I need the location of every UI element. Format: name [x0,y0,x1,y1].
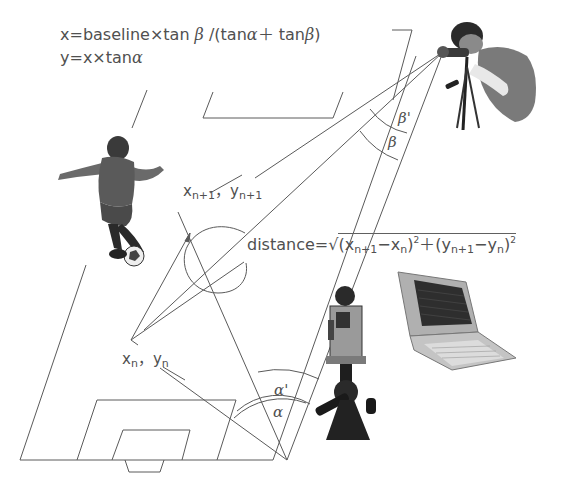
beta-symbol: β [305,25,314,44]
x-var: x [183,182,192,200]
current-marker [131,340,138,345]
point-current-label: xn，yn [122,352,169,369]
term: −y [474,235,497,254]
x-formula: x=baseline×tan β /(tanα＋ tanβ) [60,27,320,43]
y-formula: y=x×tanα [60,50,143,66]
term: −x [377,235,400,254]
laptop-image [392,266,522,376]
y-var: y [153,350,162,368]
term: ＋(y [419,235,451,254]
subscript: n [497,243,504,256]
corner-arc [234,399,306,418]
leader-x-box [203,92,343,118]
x-formula-middle: /(tan [204,25,247,44]
angle-beta: β [388,135,397,150]
superscript: 2 [510,235,516,245]
y-formula-prefix: y=x×tan [60,48,132,67]
goal-area [112,430,190,460]
distance-formula: distance=√(xn+1−xn)2＋(yn+1−yn)2 [247,236,516,255]
angle-alpha: α [273,405,283,420]
x-var: x [122,350,131,368]
x-formula-plus: ＋ tan [258,25,305,44]
angle-alpha-prime: α' [274,383,288,398]
subscript: n+1 [354,243,377,256]
beta-symbol: β [195,25,204,44]
separator: ， [138,350,153,368]
subscript: n [162,357,169,370]
point-next-label: xn+1，yn+1 [183,184,262,201]
soccer-player-image [52,128,172,268]
x-formula-suffix: ) [314,25,320,44]
goal [125,460,164,472]
distance-prefix: distance= [247,235,328,254]
subscript: n+1 [239,189,262,202]
subscript: n+1 [451,243,474,256]
distance-ellipse [184,227,246,293]
subscript: n+1 [192,189,215,202]
alpha-symbol: α [132,48,143,67]
leader-y [132,90,147,128]
separator: ， [215,182,230,200]
angle-beta-prime: β' [398,111,411,126]
sqrt-radicand: (xn+1−xn)2＋(yn+1−yn)2 [338,233,516,254]
ray-a-to-current [160,368,287,460]
alpha-symbol: α [247,25,258,44]
sqrt-symbol: √ [328,235,338,254]
ray-b-to-next [255,52,443,178]
top-observer-image [435,12,545,132]
y-var: y [230,182,239,200]
subscript: n [131,357,138,370]
field-left-edge [20,265,86,460]
term: (x [338,235,354,254]
x-formula-prefix: x=baseline×tan [60,25,195,44]
